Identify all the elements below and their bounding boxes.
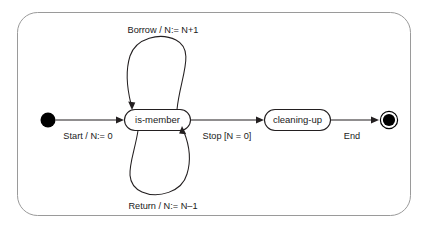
transition-return-label: Return / N:= N–1 [128,201,197,211]
transition-start-label: Start / N:= 0 [63,131,112,141]
initial-pseudostate[interactable] [41,113,56,128]
state-machine-diagram: Start / N:= 0 is-member Borrow / N:= N+1… [0,0,427,233]
transition-borrow-label: Borrow / N:= N+1 [128,25,199,35]
diagram-frame [18,13,411,216]
state-cleaning-up-label: cleaning-up [273,114,322,125]
state-is-member-label: is-member [135,114,180,125]
state-is-member[interactable]: is-member [125,110,191,131]
initial-state-dot [41,113,56,128]
transition-stop-label: Stop [N = 0] [203,131,252,141]
transition-end-label: End [344,131,360,141]
final-state[interactable] [380,111,397,128]
state-cleaning-up[interactable]: cleaning-up [265,110,331,131]
final-state-dot [383,114,395,126]
statechart-canvas: Start / N:= 0 is-member Borrow / N:= N+1… [0,0,427,233]
